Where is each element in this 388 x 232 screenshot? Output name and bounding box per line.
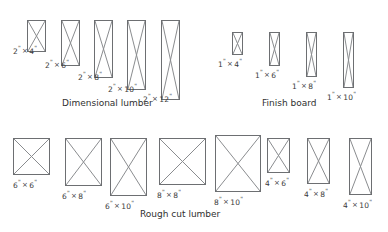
inch-mark-icon: " bbox=[276, 68, 279, 75]
cross-hatch-icon bbox=[344, 33, 353, 87]
multiplication-sign-icon: × bbox=[226, 60, 234, 68]
size-label-dimensional-lumber-1: 2"×6" bbox=[45, 59, 69, 69]
size-label-finish-board-1: 1"×6" bbox=[255, 69, 279, 79]
multiplication-sign-icon: × bbox=[116, 85, 124, 93]
size-label-rough-cut-lumber-2: 6"×10" bbox=[105, 200, 134, 210]
group-caption-rough-cut-lumber: Rough cut lumber bbox=[140, 210, 220, 219]
inch-mark-icon: " bbox=[353, 90, 356, 97]
multiplication-sign-icon: × bbox=[263, 71, 271, 79]
group-caption-finish-board: Finish board bbox=[262, 99, 316, 108]
cross-hatch-icon bbox=[350, 139, 371, 194]
size-label-finish-board-3: 1"×10" bbox=[327, 91, 356, 101]
lumber-cross-section-rough-cut-lumber-6 bbox=[307, 138, 330, 184]
inch-mark-icon: " bbox=[286, 176, 289, 183]
multiplication-sign-icon: × bbox=[165, 191, 173, 199]
size-label-finish-board-2: 1"×8" bbox=[292, 80, 316, 90]
cross-hatch-icon bbox=[233, 33, 242, 54]
multiplication-sign-icon: × bbox=[300, 82, 308, 90]
inch-mark-icon: " bbox=[131, 199, 134, 206]
lumber-cross-section-finish-board-1 bbox=[269, 32, 280, 66]
size-label-rough-cut-lumber-1: 6"×8" bbox=[62, 190, 86, 200]
inch-mark-icon: " bbox=[34, 178, 37, 185]
multiplication-sign-icon: × bbox=[351, 201, 359, 209]
cross-hatch-icon bbox=[308, 139, 329, 183]
inch-mark-icon: " bbox=[99, 70, 102, 77]
inch-mark-icon: " bbox=[369, 198, 372, 205]
multiplication-sign-icon: × bbox=[312, 190, 320, 198]
multiplication-sign-icon: × bbox=[222, 198, 230, 206]
size-label-dimensional-lumber-2: 2"×8" bbox=[78, 71, 102, 81]
lumber-cross-section-rough-cut-lumber-2 bbox=[110, 138, 147, 196]
size-label-rough-cut-lumber-0: 6"×6" bbox=[13, 179, 37, 189]
lumber-cross-section-dimensional-lumber-4 bbox=[161, 20, 180, 100]
cross-hatch-icon bbox=[160, 139, 205, 184]
inch-mark-icon: " bbox=[34, 44, 37, 51]
size-label-rough-cut-lumber-6: 4"×8" bbox=[304, 188, 328, 198]
lumber-cross-section-rough-cut-lumber-0 bbox=[13, 138, 50, 175]
size-label-rough-cut-lumber-3: 8"×8" bbox=[157, 189, 181, 199]
inch-mark-icon: " bbox=[178, 188, 181, 195]
size-label-second-number: 10 bbox=[124, 85, 134, 94]
size-label-second-number: 12 bbox=[159, 95, 169, 104]
cross-hatch-icon bbox=[66, 139, 101, 185]
inch-mark-icon: " bbox=[325, 187, 328, 194]
size-label-rough-cut-lumber-5: 4"×6" bbox=[265, 177, 289, 187]
inch-mark-icon: " bbox=[83, 189, 86, 196]
size-label-second-number: 10 bbox=[230, 198, 240, 207]
lumber-cross-section-rough-cut-lumber-7 bbox=[349, 138, 372, 195]
multiplication-sign-icon: × bbox=[113, 202, 121, 210]
cross-hatch-icon bbox=[216, 136, 260, 191]
lumber-cross-section-finish-board-3 bbox=[343, 32, 354, 88]
cross-hatch-icon bbox=[111, 139, 146, 195]
cross-hatch-icon bbox=[162, 21, 179, 99]
lumber-cross-section-rough-cut-lumber-5 bbox=[267, 138, 290, 173]
size-label-rough-cut-lumber-7: 4"×10" bbox=[343, 199, 372, 209]
lumber-cross-section-dimensional-lumber-3 bbox=[127, 20, 146, 90]
cross-hatch-icon bbox=[14, 139, 49, 174]
inch-mark-icon: " bbox=[240, 195, 243, 202]
group-caption-dimensional-lumber: Dimensional lumber bbox=[62, 99, 153, 108]
lumber-cross-section-finish-board-0 bbox=[232, 32, 243, 55]
size-label-second-number: 10 bbox=[343, 93, 353, 102]
inch-mark-icon: " bbox=[313, 79, 316, 86]
multiplication-sign-icon: × bbox=[70, 192, 78, 200]
size-label-dimensional-lumber-3: 2"×10" bbox=[108, 83, 137, 93]
lumber-cross-section-dimensional-lumber-2 bbox=[94, 20, 113, 78]
inch-mark-icon: " bbox=[239, 57, 242, 64]
size-label-dimensional-lumber-0: 2"×4" bbox=[13, 45, 37, 55]
lumber-cross-section-rough-cut-lumber-3 bbox=[159, 138, 206, 185]
lumber-cross-section-rough-cut-lumber-1 bbox=[65, 138, 102, 186]
multiplication-sign-icon: × bbox=[53, 61, 61, 69]
size-label-second-number: 10 bbox=[121, 202, 131, 211]
lumber-size-diagram: 2"×4"2"×6"2"×8"2"×10"2"×12"Dimensional l… bbox=[0, 0, 388, 232]
cross-hatch-icon bbox=[270, 33, 279, 65]
lumber-cross-section-rough-cut-lumber-4 bbox=[215, 135, 261, 192]
multiplication-sign-icon: × bbox=[21, 47, 29, 55]
multiplication-sign-icon: × bbox=[21, 181, 29, 189]
multiplication-sign-icon: × bbox=[335, 93, 343, 101]
size-label-finish-board-0: 1"×4" bbox=[218, 58, 242, 68]
size-label-rough-cut-lumber-4: 8"×10" bbox=[214, 196, 243, 206]
multiplication-sign-icon: × bbox=[273, 179, 281, 187]
inch-mark-icon: " bbox=[169, 92, 172, 99]
multiplication-sign-icon: × bbox=[86, 73, 94, 81]
cross-hatch-icon bbox=[307, 33, 316, 76]
cross-hatch-icon bbox=[95, 21, 112, 77]
inch-mark-icon: " bbox=[66, 58, 69, 65]
inch-mark-icon: " bbox=[134, 82, 137, 89]
size-label-second-number: 10 bbox=[359, 201, 369, 210]
lumber-cross-section-finish-board-2 bbox=[306, 32, 317, 77]
cross-hatch-icon bbox=[128, 21, 145, 89]
cross-hatch-icon bbox=[268, 139, 289, 172]
